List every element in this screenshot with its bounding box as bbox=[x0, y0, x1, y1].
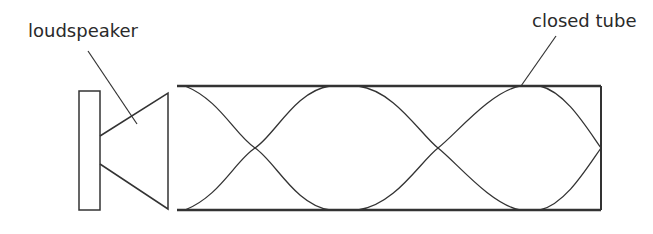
closed-tube-leader-line bbox=[521, 36, 556, 86]
standing-wave-diagram bbox=[0, 0, 653, 234]
loudspeaker-icon bbox=[79, 91, 168, 210]
closed-tube bbox=[177, 86, 601, 210]
standing-wave-curves bbox=[185, 86, 601, 210]
loudspeaker-leader-line bbox=[88, 51, 137, 124]
